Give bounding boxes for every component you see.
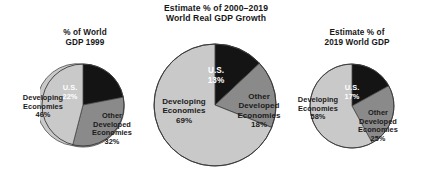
chart-2-title: Estimate % of 2000–2019 World Real GDP G… <box>140 3 292 24</box>
chart-2-title-line-2: World Real GDP Growth <box>140 13 292 23</box>
gdp-pie-chart-figure: % of World GDP 1999 U.S. 22% Other Devel… <box>0 0 428 174</box>
chart-2-title-line-1: Estimate % of 2000–2019 <box>140 3 292 13</box>
pie-2-label-us-value: 13% <box>196 76 236 86</box>
chart-3-title-line-1: Estimate % of <box>292 28 422 38</box>
chart-1-title-line-1: % of World <box>20 28 150 38</box>
pie-2-label-other-developed: Other Developed Economies 18% <box>228 92 290 129</box>
pie-1-label-other-developed: Other Developed Economies 32% <box>84 112 140 146</box>
pie-2-label-developing-line-2: Economies <box>152 106 216 115</box>
pie-1-label-other-value: 32% <box>84 138 140 147</box>
pie-1-label-developing-value: 46% <box>14 111 72 120</box>
chart-3-title-line-2: 2019 World GDP <box>292 38 422 48</box>
pie-2-label-other-value: 18% <box>228 120 290 129</box>
pie-2-label-other-line-2: Developed <box>228 101 290 110</box>
pie-3-label-developing-value: 58% <box>289 113 347 122</box>
pie-3-label-other-value: 25% <box>350 135 406 144</box>
pie-2-label-developing-value: 69% <box>152 116 216 125</box>
pie-2-label-us-name: U.S. <box>196 66 236 76</box>
pie-2-label-developing-line-1: Developing <box>152 97 216 106</box>
chart-3-title: Estimate % of 2019 World GDP <box>292 28 422 48</box>
pie-2-label-other-line-3: Economies <box>228 111 290 120</box>
pie-3-label-developing: Developing Economies 58% <box>289 96 347 122</box>
pie-1-label-developing: Developing Economies 46% <box>14 94 72 120</box>
chart-1-title: % of World GDP 1999 <box>20 28 150 48</box>
pie-2-label-developing: Developing Economies 69% <box>152 97 216 125</box>
pie-2-label-us: U.S. 13% <box>196 66 236 85</box>
pie-2-label-other-line-1: Other <box>228 92 290 101</box>
pie-3-label-other-developed: Other Developed Economies 25% <box>350 109 406 143</box>
chart-1-title-line-2: GDP 1999 <box>20 38 150 48</box>
